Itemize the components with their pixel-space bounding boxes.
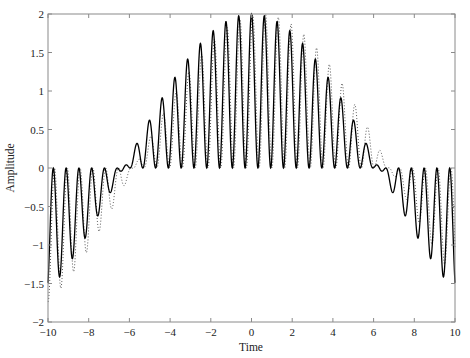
x-axis-label: Time bbox=[239, 341, 263, 353]
x-tick-label: 2 bbox=[289, 326, 295, 338]
y-tick-label: 0 bbox=[39, 162, 45, 174]
y-axis-label: Amplitude bbox=[4, 143, 17, 192]
y-tick-label: 1 bbox=[39, 85, 45, 97]
x-tick-label: −8 bbox=[83, 326, 95, 338]
x-tick-label: 4 bbox=[330, 326, 336, 338]
x-tick-label: 6 bbox=[371, 326, 377, 338]
x-tick-label: 10 bbox=[450, 326, 462, 338]
chart: −10−8−6−4−20246810−2−1.5−1−0.500.511.52 … bbox=[0, 0, 470, 358]
y-tick-label: 2 bbox=[39, 8, 45, 20]
y-tick-label: 1.5 bbox=[30, 47, 44, 59]
x-tick-label: 8 bbox=[412, 326, 418, 338]
y-tick-label: −0.5 bbox=[24, 201, 44, 213]
y-tick-label: 0.5 bbox=[30, 124, 44, 136]
x-tick-label: −2 bbox=[205, 326, 217, 338]
plot-background bbox=[48, 14, 455, 322]
y-tick-label: −2 bbox=[32, 316, 44, 328]
x-tick-label: −6 bbox=[124, 326, 136, 338]
y-tick-label: −1 bbox=[32, 239, 44, 251]
y-tick-label: −1.5 bbox=[24, 278, 44, 290]
x-tick-label: 0 bbox=[249, 326, 255, 338]
x-tick-label: −4 bbox=[164, 326, 176, 338]
